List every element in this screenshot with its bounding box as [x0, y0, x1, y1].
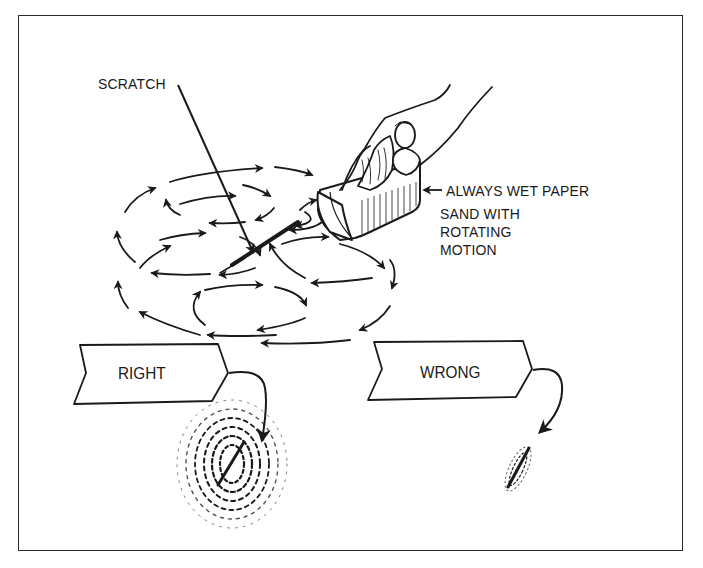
wrong-pointer-arrow	[533, 369, 562, 432]
right-sanding-pattern	[177, 400, 287, 528]
scratch-label: SCRATCH	[98, 76, 166, 92]
wet-paper-label: ALWAYS WET PAPER	[446, 183, 589, 199]
right-pointer-arrow	[229, 372, 266, 440]
sand-instruction-line-1: SAND WITH	[440, 205, 520, 223]
scratch-pointer-line	[178, 85, 253, 252]
wrong-sanding-pattern	[500, 443, 537, 494]
sand-instruction-line-2: ROTATING	[440, 223, 520, 241]
sand-instruction-label: SAND WITH ROTATING MOTION	[440, 205, 520, 259]
sand-instruction-line-3: MOTION	[440, 241, 520, 259]
right-banner-label: RIGHT	[118, 365, 166, 382]
wrong-banner-label: WRONG	[420, 364, 480, 381]
